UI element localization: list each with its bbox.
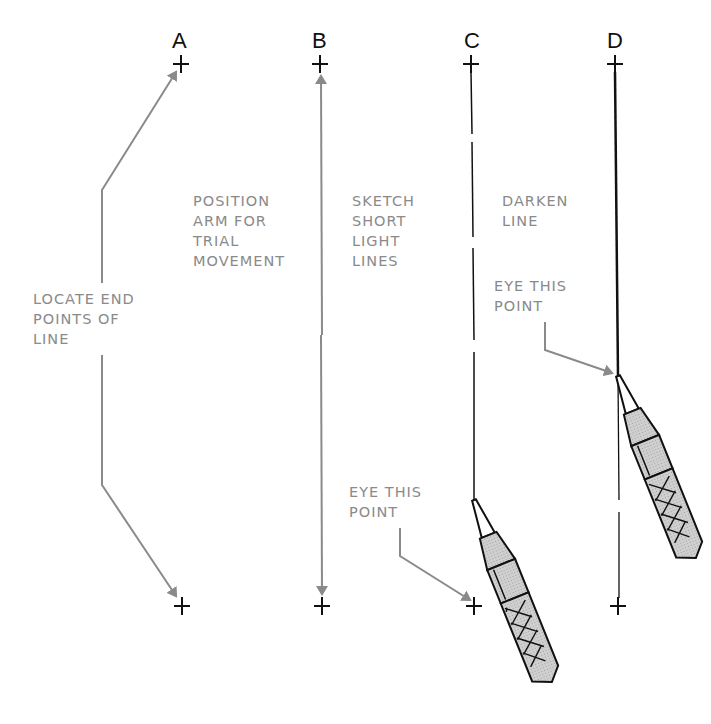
column-label-b: B [312,28,327,54]
note-darken-line: DARKEN LINE [502,191,568,231]
cross-c-top [463,55,479,73]
cross-b-bottom [314,597,330,615]
cross-b-top [312,55,328,73]
note-locate-end-points: LOCATE END POINTS OF LINE [33,289,135,349]
cross-d-bottom [610,597,626,615]
column-label-c: C [464,28,480,54]
cross-a-bottom [174,597,190,615]
note-sketch-short-lines: SKETCH SHORT LIGHT LINES [352,191,415,271]
cross-d-top [607,55,623,73]
diagram-canvas [0,0,711,724]
column-c-sketch-line [471,72,474,500]
pencil-c-icon [461,494,563,689]
column-label-d: D [607,28,623,54]
note-eye-point-d: EYE THIS POINT [494,276,567,316]
column-label-a: A [172,28,187,54]
cross-a-top [173,55,189,73]
pencil-d-icon [605,370,707,565]
note-position-arm: POSITION ARM FOR TRIAL MOVEMENT [193,191,285,271]
column-b-double-arrow [321,76,322,594]
note-eye-point-c: EYE THIS POINT [349,482,422,522]
column-d-dark-line [615,72,619,598]
